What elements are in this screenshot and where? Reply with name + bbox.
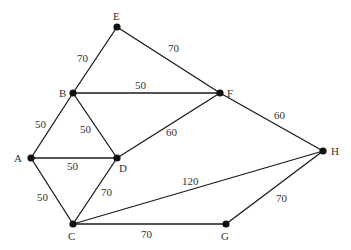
edge-weight-e-f: 70 — [168, 42, 180, 54]
edge-weight-c-h: 120 — [182, 175, 199, 187]
node-label-f: F — [227, 87, 233, 99]
node-a — [27, 154, 34, 161]
node-label-h: H — [331, 145, 339, 157]
node-label-e: E — [113, 10, 120, 22]
node-b — [69, 89, 76, 96]
edge-weight-a-c: 50 — [37, 191, 49, 203]
edge-weight-b-a: 50 — [35, 118, 47, 130]
node-f — [216, 89, 223, 96]
edge-weight-b-d: 50 — [80, 123, 92, 135]
edge-weight-a-d: 50 — [67, 160, 79, 172]
edge-weight-e-b: 70 — [77, 52, 89, 64]
edge-g-h — [226, 151, 323, 224]
edge-e-f — [117, 27, 220, 93]
edge-weight-g-h: 70 — [276, 192, 288, 204]
node-d — [113, 154, 120, 161]
edge-weight-d-c: 70 — [101, 186, 113, 198]
node-c — [69, 220, 76, 227]
node-label-g: G — [221, 230, 229, 242]
edge-weight-b-f: 50 — [135, 79, 147, 91]
node-h — [319, 147, 326, 154]
edge-weight-f-h: 60 — [274, 109, 286, 121]
edge-f-h — [220, 93, 323, 151]
edge-weight-d-f: 60 — [166, 126, 178, 138]
node-e — [113, 23, 120, 30]
weighted-graph-diagram: 707050505050605070601207070EBFADHCG — [0, 0, 351, 250]
node-label-c: C — [68, 230, 75, 242]
node-label-d: D — [119, 162, 127, 174]
node-g — [222, 220, 229, 227]
node-label-a: A — [14, 152, 22, 164]
node-label-b: B — [59, 87, 66, 99]
edge-weight-c-g: 70 — [141, 228, 153, 240]
